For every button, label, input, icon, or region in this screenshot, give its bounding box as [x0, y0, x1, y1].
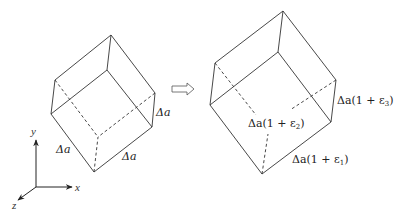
strain-cube-diagram: Δa Δa Δa Δa(1 + ε2) Δa(1 + ε3) Δa(1 + ε1… [0, 0, 395, 215]
x-axis-label: x [75, 182, 80, 193]
z-axis-label: z [12, 200, 16, 211]
label-eps1: Δa(1 + ε1) [292, 154, 348, 167]
label-eps2: Δa(1 + ε2) [248, 118, 304, 131]
left-edge-label-1: Δa [56, 144, 71, 155]
left-edge-label-3: Δa [156, 107, 171, 118]
y-axis-label: y [31, 126, 36, 137]
diagram-lines [0, 0, 395, 215]
right-cube [210, 11, 336, 174]
transition-arrow-icon [172, 83, 194, 95]
left-edge-label-2: Δa [122, 151, 137, 162]
label-eps3: Δa(1 + ε3) [337, 95, 393, 108]
